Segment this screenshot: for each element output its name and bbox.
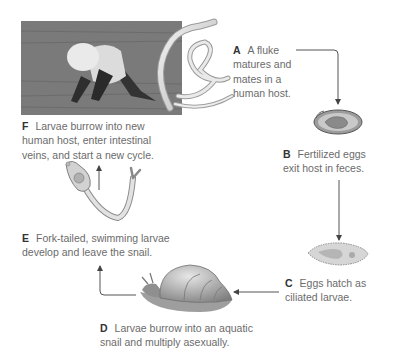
stage-d-key: D xyxy=(100,322,108,334)
stage-a-line: mates in a xyxy=(233,72,291,86)
stage-d-line: Larvae burrow into an aquatic xyxy=(115,322,253,334)
stage-a-line: human host. xyxy=(233,86,291,100)
stage-d-label: DLarvae burrow into an aquatic snail and… xyxy=(100,321,253,350)
stage-b-line: exit host in feces. xyxy=(283,161,366,175)
stage-c-key: C xyxy=(285,277,293,289)
fork-tailed-larva-illustration xyxy=(66,161,140,218)
stage-f-line: veins, and start a new cycle. xyxy=(22,148,154,162)
fertilized-egg-illustration xyxy=(314,110,362,134)
stage-c-line: Eggs hatch as xyxy=(300,277,367,289)
arrow-d-to-e xyxy=(100,266,136,295)
stage-c-label: CEggs hatch as ciliated larvae. xyxy=(285,276,366,305)
stage-b-label: BFertilized eggs exit host in feces. xyxy=(283,147,366,176)
diagram-graphics xyxy=(0,0,399,359)
adult-flukes-illustration xyxy=(160,22,232,108)
stage-f-label: FLarvae burrow into new human host, ente… xyxy=(22,119,154,162)
stage-b-key: B xyxy=(283,148,291,160)
stage-e-line: develop and leave the snail. xyxy=(22,245,170,259)
aquatic-snail-illustration xyxy=(140,265,232,312)
stage-f-key: F xyxy=(22,120,28,132)
stage-a-line: A fluke xyxy=(248,44,280,56)
arrow-a-to-b xyxy=(296,50,338,104)
stage-a-line: matures and xyxy=(233,57,291,71)
ciliated-larva-illustration xyxy=(308,243,368,265)
stage-e-line: Fork-tailed, swimming larvae xyxy=(36,232,170,244)
stage-b-line: Fertilized eggs xyxy=(298,148,366,160)
stage-a-label: AA fluke matures and mates in a human ho… xyxy=(233,43,291,100)
stage-e-key: E xyxy=(22,232,29,244)
stage-f-line: Larvae burrow into new xyxy=(35,120,144,132)
stage-f-line: human host, enter intestinal xyxy=(22,133,154,147)
stage-c-line: ciliated larvae. xyxy=(285,290,366,304)
stage-a-key: A xyxy=(233,44,241,56)
stage-d-line: snail and multiply asexually. xyxy=(100,335,253,349)
stage-e-label: EFork-tailed, swimming larvae develop an… xyxy=(22,231,170,260)
